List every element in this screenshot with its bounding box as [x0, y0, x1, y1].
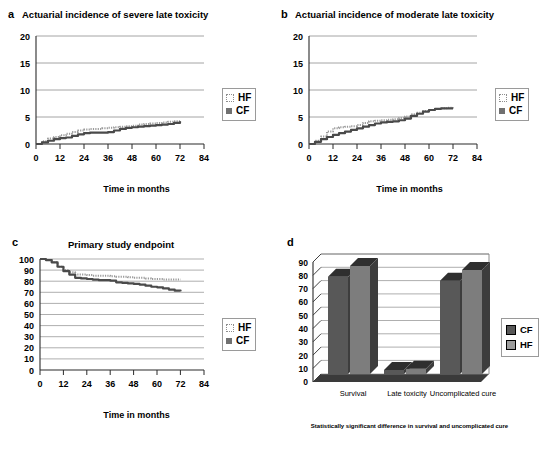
- legend-item-cf: CF: [226, 104, 251, 117]
- svg-text:10: 10: [299, 364, 309, 374]
- cf-marker-icon: [226, 338, 232, 344]
- svg-text:100: 100: [19, 255, 34, 265]
- panel-d-legend: CF HF: [501, 318, 539, 357]
- svg-text:72: 72: [175, 379, 185, 389]
- legend-item-hf: HF: [226, 321, 251, 334]
- svg-text:15: 15: [20, 59, 30, 69]
- svg-text:10: 10: [24, 354, 34, 364]
- panel-a-svg: 20 15 10 5 0 0 12 24 36 48: [8, 28, 220, 176]
- svg-text:24: 24: [79, 153, 89, 163]
- panel-c-xlabel: Time in months: [0, 411, 273, 420]
- svg-text:15: 15: [293, 59, 303, 69]
- panel-c-letter: c: [12, 237, 18, 248]
- panel-d: d: [273, 225, 546, 449]
- svg-text:36: 36: [105, 379, 115, 389]
- svg-text:20: 20: [20, 32, 30, 42]
- svg-text:36: 36: [103, 153, 113, 163]
- cf-marker-icon: [226, 108, 232, 114]
- panel-b-gridlines: [309, 36, 477, 117]
- svg-text:60: 60: [299, 297, 309, 307]
- legend-label-hf: HF: [238, 323, 251, 333]
- svg-text:48: 48: [129, 379, 139, 389]
- hf-swatch-icon: [506, 340, 516, 350]
- panel-c-series-hf: [40, 259, 181, 280]
- svg-text:72: 72: [175, 153, 185, 163]
- panel-b-series-hf: [309, 107, 453, 144]
- panel-a: a Actuarial incidence of severe late tox…: [0, 0, 273, 225]
- legend-item-hf: HF: [506, 337, 533, 352]
- bar-side-hf-0: [370, 258, 378, 374]
- panel-b-letter: b: [281, 9, 288, 20]
- svg-text:20: 20: [293, 32, 303, 42]
- svg-text:84: 84: [472, 153, 482, 163]
- svg-text:10: 10: [293, 86, 303, 96]
- panel-b-y-ticklabels: 20 15 10 5 0: [293, 32, 303, 150]
- bar-hf-0: [350, 266, 370, 374]
- svg-text:70: 70: [299, 284, 309, 294]
- svg-text:40: 40: [299, 324, 309, 334]
- bar-cf-0: [328, 277, 348, 374]
- svg-text:0: 0: [37, 379, 42, 389]
- panel-b-legend: HF CF: [495, 88, 529, 121]
- legend-item-hf: HF: [226, 91, 251, 104]
- panel-b-series-cf: [309, 108, 453, 144]
- svg-text:80: 80: [24, 277, 34, 287]
- panel-d-y-ticklabels: 90 80 70 60 50 40 30 20 10 0: [299, 258, 309, 388]
- cf-marker-icon: [499, 108, 505, 114]
- svg-text:48: 48: [400, 153, 410, 163]
- svg-text:50: 50: [24, 310, 34, 320]
- panel-c-x-ticks: [40, 370, 204, 375]
- svg-text:24: 24: [352, 153, 362, 163]
- svg-text:10: 10: [20, 86, 30, 96]
- legend-label-cf: CF: [236, 336, 249, 346]
- cf-swatch-icon: [506, 325, 516, 335]
- svg-text:24: 24: [82, 379, 92, 389]
- svg-text:5: 5: [25, 113, 30, 123]
- svg-text:12: 12: [55, 153, 65, 163]
- legend-item-cf: CF: [226, 334, 251, 347]
- svg-text:0: 0: [33, 153, 38, 163]
- bar-cf-1: [384, 370, 404, 374]
- svg-text:30: 30: [299, 337, 309, 347]
- legend-label-cf: CF: [520, 325, 533, 335]
- panel-b-plot: 20 15 10 5 0 0 12 24 36 48: [281, 28, 493, 176]
- svg-text:Survival: Survival: [340, 389, 367, 398]
- bar-cf-2: [440, 281, 460, 374]
- bar-side-hf-2: [482, 262, 490, 374]
- bar-hf-2: [462, 270, 482, 374]
- bar-hf-1: [406, 369, 426, 374]
- panel-a-legend: HF CF: [222, 88, 256, 121]
- panel-a-title: Actuarial incidence of severe late toxic…: [22, 10, 208, 20]
- svg-text:0: 0: [306, 153, 311, 163]
- svg-text:70: 70: [24, 288, 34, 298]
- svg-text:0: 0: [298, 140, 303, 150]
- legend-label-hf: HF: [511, 93, 524, 103]
- panel-d-caption: Statistically significant difference in …: [273, 423, 546, 429]
- panel-a-series-cf: [36, 121, 180, 144]
- panel-b: b Actuarial incidence of moderate late t…: [273, 0, 546, 225]
- hf-marker-icon: [226, 324, 234, 332]
- panel-b-xlabel: Time in months: [273, 185, 546, 194]
- panel-c-gridlines: [40, 259, 204, 359]
- svg-text:12: 12: [328, 153, 338, 163]
- panel-c-plot: 100 90 80 70 60 50 40 30 20 10 0: [8, 253, 220, 408]
- panel-d-letter: d: [287, 237, 294, 248]
- panel-c: c Primary study endpoint 100 90 80: [0, 225, 273, 449]
- legend-label-cf: CF: [236, 106, 249, 116]
- panel-c-svg: 100 90 80 70 60 50 40 30 20 10 0: [8, 253, 220, 408]
- svg-text:40: 40: [24, 321, 34, 331]
- svg-text:12: 12: [58, 379, 68, 389]
- svg-text:5: 5: [298, 113, 303, 123]
- panel-a-y-ticklabels: 20 15 10 5 0: [20, 32, 30, 150]
- svg-text:48: 48: [127, 153, 137, 163]
- svg-text:60: 60: [24, 299, 34, 309]
- svg-text:0: 0: [25, 140, 30, 150]
- svg-text:90: 90: [299, 258, 309, 268]
- panel-a-xlabel: Time in months: [0, 185, 273, 194]
- panel-b-svg: 20 15 10 5 0 0 12 24 36 48: [281, 28, 493, 176]
- panel-b-x-ticks: [309, 144, 477, 149]
- svg-text:20: 20: [24, 343, 34, 353]
- legend-label-hf: HF: [520, 340, 533, 350]
- svg-text:Uncomplicated cure: Uncomplicated cure: [430, 389, 496, 398]
- hf-marker-icon: [226, 94, 234, 102]
